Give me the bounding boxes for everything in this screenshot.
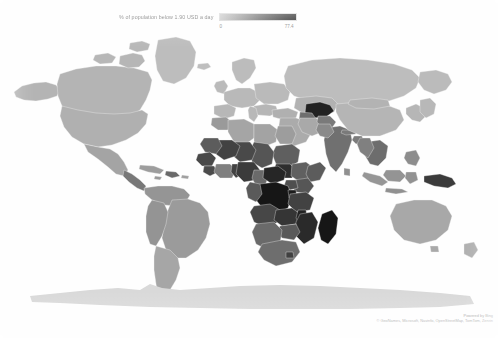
legend-min-label: 0 [220,24,223,30]
country-indonesia-java[interactable] [385,188,408,194]
country-egypt[interactable] [275,126,296,144]
island-cuba[interactable] [139,165,164,174]
map-attribution: Powered by Bing © GeoNames, Microsoft, N… [376,313,493,324]
island-baffin[interactable] [119,53,145,68]
country-new-zealand[interactable] [464,242,478,258]
country-south-africa[interactable] [258,240,300,266]
legend-scale: 0 77.4 [219,13,295,33]
legend-ticks: 0 77.4 [219,24,295,33]
island-ellesmere[interactable] [129,41,150,52]
world-map[interactable] [0,0,498,338]
map-visual: % of population below 1.90 USD a day 0 7… [0,0,498,338]
legend-max-label: 77.4 [285,24,294,30]
region-russia-far-east[interactable] [418,70,452,94]
region-eastern-europe[interactable] [254,82,290,104]
country-madagascar[interactable] [318,210,338,244]
region-central-america[interactable] [123,170,146,191]
country-greenland[interactable] [155,37,196,84]
legend-title: % of population below 1.90 USD a day [119,13,213,21]
country-mozambique[interactable] [296,212,318,244]
island-puerto-rico[interactable] [181,175,189,179]
island-tasmania[interactable] [430,246,439,252]
continent-antarctica[interactable] [30,284,474,309]
island-hispaniola[interactable] [165,171,180,178]
country-indonesia-sulawesi[interactable] [405,172,418,184]
country-philippines[interactable] [404,150,420,166]
map-legend: % of population below 1.90 USD a day 0 7… [119,13,295,33]
powered-by-bing-label: Powered by Bing [376,313,493,318]
map-copyright-label: © GeoNames, Microsoft, Navinfo, OpenStre… [376,318,493,323]
country-iceland[interactable] [197,63,211,70]
choropleth-map-svg[interactable] [0,0,498,338]
country-alaska[interactable] [14,82,60,101]
country-papua-new-guinea[interactable] [424,174,456,188]
country-australia[interactable] [390,200,452,244]
country-senegal-guinea[interactable] [196,152,216,166]
country-brazil[interactable] [162,199,210,258]
island-victoria[interactable] [93,53,116,64]
legend-gradient-bar [219,13,297,21]
country-lesotho[interactable] [286,252,294,258]
island-jamaica[interactable] [154,176,162,180]
island-sri-lanka[interactable] [344,168,350,176]
region-scandinavia[interactable] [232,58,256,84]
country-mexico[interactable] [84,144,128,176]
country-spain-portugal[interactable] [214,104,236,119]
country-indonesia-borneo[interactable] [383,170,406,182]
